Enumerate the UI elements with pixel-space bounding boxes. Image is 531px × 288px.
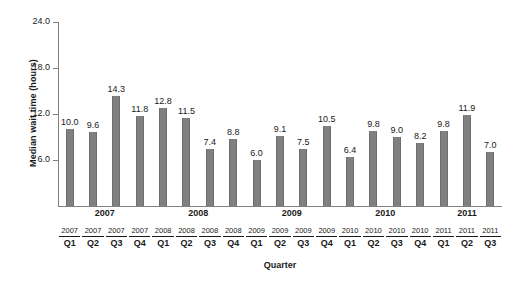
x-axis-tick-quarter: Q1 [245, 238, 268, 249]
x-axis-tick-group: 2009Q1 [245, 226, 268, 249]
bar-value-label: 12.8 [154, 96, 172, 106]
x-axis-tick-quarter: Q1 [432, 238, 455, 249]
x-axis-tick-year: 2008 [175, 226, 198, 235]
x-axis-tick-rule [106, 236, 127, 237]
x-axis-tick-year: 2011 [432, 226, 455, 235]
bar-value-label: 7.4 [204, 137, 217, 147]
x-axis-tick-group: 2009Q4 [315, 226, 338, 249]
bar-slot: 8.2 [409, 22, 432, 206]
bar[interactable] [346, 157, 354, 206]
x-axis-tick-year: 2009 [292, 226, 315, 235]
bar-slot: 9.8 [362, 22, 385, 206]
year-group-band: 20072008200920102011 [58, 208, 502, 222]
x-axis-tick-quarter: Q4 [409, 238, 432, 249]
bar-value-label: 8.8 [227, 127, 240, 137]
x-axis-tick-group: 2011Q3 [479, 226, 502, 249]
x-axis-tick-rule [199, 236, 220, 237]
bar-value-label: 9.0 [391, 125, 404, 135]
year-group-label: 2009 [245, 208, 338, 218]
year-group-label: 2007 [58, 208, 151, 218]
x-axis-tick-rule [246, 236, 267, 237]
x-axis-tick-quarter: Q2 [81, 238, 104, 249]
x-axis-tick-year: 2007 [58, 226, 81, 235]
bar-slot: 6.4 [338, 22, 361, 206]
bar[interactable] [440, 131, 448, 206]
x-axis-tick-group: 2011Q2 [455, 226, 478, 249]
bar-slot: 9.0 [385, 22, 408, 206]
bar[interactable] [369, 131, 377, 206]
x-axis-tick-quarter: Q3 [385, 238, 408, 249]
x-axis-tick-quarter: Q2 [268, 238, 291, 249]
x-axis-tick-group: 2007Q1 [58, 226, 81, 249]
x-axis-tick-year: 2008 [198, 226, 221, 235]
x-axis-tick-quarter: Q4 [315, 238, 338, 249]
bar-value-label: 10.0 [61, 117, 79, 127]
bar[interactable] [486, 152, 494, 206]
bar[interactable] [229, 139, 237, 206]
x-axis-tick-group: 2008Q1 [151, 226, 174, 249]
x-axis-tick-group: 2007Q2 [81, 226, 104, 249]
bar[interactable] [159, 108, 167, 206]
bar[interactable] [299, 149, 307, 207]
x-axis-tick-rule [456, 236, 477, 237]
x-axis-tick-group: 2007Q3 [105, 226, 128, 249]
x-axis-tick-group: 2008Q4 [222, 226, 245, 249]
x-axis-tick-rule [363, 236, 384, 237]
bar-slot: 14.3 [105, 22, 128, 206]
x-axis-tick-group: 2011Q1 [432, 226, 455, 249]
x-axis-tick-year: 2011 [455, 226, 478, 235]
bar-slot: 7.0 [479, 22, 502, 206]
x-axis-tick-year: 2009 [315, 226, 338, 235]
x-axis-tick-quarter: Q4 [222, 238, 245, 249]
x-axis-tick-year: 2011 [479, 226, 502, 235]
x-axis-tick-rule [293, 236, 314, 237]
x-axis-tick-quarter: Q2 [455, 238, 478, 249]
x-axis-tick-year: 2007 [128, 226, 151, 235]
bar[interactable] [66, 129, 74, 206]
bar[interactable] [253, 160, 261, 206]
bar[interactable] [416, 143, 424, 206]
x-axis-tick-year: 2007 [105, 226, 128, 235]
bar-slot: 9.1 [268, 22, 291, 206]
bar[interactable] [136, 116, 144, 206]
bar-slot: 7.4 [198, 22, 221, 206]
x-axis-tick-group: 2010Q2 [362, 226, 385, 249]
bar[interactable] [89, 132, 97, 206]
bar[interactable] [206, 149, 214, 206]
bar-value-label: 9.1 [274, 124, 287, 134]
bar[interactable] [393, 137, 401, 206]
bar-value-label: 6.0 [250, 148, 263, 158]
x-axis-tick-quarter: Q3 [479, 238, 502, 249]
bar-slot: 10.5 [315, 22, 338, 206]
bar[interactable] [276, 136, 284, 206]
bar-slot: 12.8 [151, 22, 174, 206]
x-axis-tick-quarter: Q1 [338, 238, 361, 249]
bar-value-label: 14.3 [108, 84, 126, 94]
bar-chart: Median wait time (hours) 6.012.018.024.0… [0, 0, 531, 288]
bar-slot: 9.8 [432, 22, 455, 206]
x-axis-tick-year: 2009 [268, 226, 291, 235]
bar[interactable] [323, 126, 331, 207]
x-axis-tick-year: 2009 [245, 226, 268, 235]
year-group-label: 2011 [432, 208, 502, 218]
bar-value-label: 7.5 [297, 137, 310, 147]
bar-value-label: 9.8 [367, 119, 380, 129]
bar-slot: 10.0 [58, 22, 81, 206]
year-group-label: 2010 [338, 208, 431, 218]
bar[interactable] [463, 115, 471, 206]
y-axis-tick-label: 18.0 [16, 62, 50, 72]
bar-series: 10.09.614.311.812.811.57.48.86.09.17.510… [58, 22, 502, 206]
y-axis-tick-label: 12.0 [16, 108, 50, 118]
x-axis-tick-quarter: Q1 [151, 238, 174, 249]
bar[interactable] [182, 118, 190, 206]
bar-value-label: 7.0 [484, 140, 497, 150]
bar[interactable] [112, 96, 120, 206]
bar-value-label: 9.8 [437, 119, 450, 129]
bar-value-label: 11.9 [458, 103, 475, 113]
bar-value-label: 11.5 [178, 106, 195, 116]
bar-value-label: 9.6 [87, 120, 100, 130]
x-axis-tick-quarter: Q1 [58, 238, 81, 249]
x-axis-tick-quarter: Q3 [292, 238, 315, 249]
x-axis-tick-rule [433, 236, 454, 237]
x-axis-tick-quarter: Q2 [175, 238, 198, 249]
